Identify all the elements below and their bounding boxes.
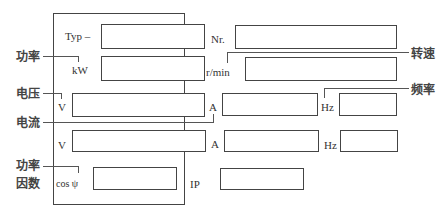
current-leader-h xyxy=(43,122,213,123)
power-factor-leader-h xyxy=(43,166,79,167)
voltage-field-1[interactable] xyxy=(72,93,205,117)
power-unit-label: kW xyxy=(72,64,88,76)
frequency-annotation: 频率 xyxy=(411,84,435,97)
current-unit-label-1: A xyxy=(209,101,217,113)
freq-unit-label-2: Hz xyxy=(324,139,337,151)
frequency-leader-h xyxy=(324,88,409,89)
current-leader-v xyxy=(213,114,214,123)
ip-field[interactable] xyxy=(220,168,304,190)
voltage-field-2[interactable] xyxy=(72,130,206,152)
number-field[interactable] xyxy=(235,25,397,49)
voltage-leader-h xyxy=(43,93,62,94)
power-leader-v xyxy=(78,56,79,62)
freq-unit-label-1: Hz xyxy=(321,101,334,113)
voltage-leader-v xyxy=(61,93,62,99)
cos-label: cos ψ xyxy=(56,178,78,190)
speed-leader-v xyxy=(227,52,228,63)
current-field-2[interactable] xyxy=(224,130,319,152)
freq-field-2[interactable] xyxy=(340,130,398,152)
freq-field-1[interactable] xyxy=(339,93,397,116)
power-annotation: 功率 xyxy=(16,51,40,64)
speed-unit-label: r/min xyxy=(206,66,230,78)
power-leader-h xyxy=(43,56,79,57)
power-factor-annotation-line2: 因数 xyxy=(16,178,40,191)
cos-field[interactable] xyxy=(93,167,177,190)
speed-field[interactable] xyxy=(245,57,397,81)
type-label: Typ – xyxy=(65,30,90,42)
voltage-unit-label-1: V xyxy=(58,101,66,113)
current-field-1[interactable] xyxy=(222,93,318,116)
ip-label: IP xyxy=(190,178,200,190)
current-unit-label-2: A xyxy=(211,138,219,150)
type-field[interactable] xyxy=(101,24,205,49)
speed-annotation: 转速 xyxy=(411,48,435,61)
voltage-unit-label-2: V xyxy=(58,139,66,151)
power-factor-annotation-line1: 功率 xyxy=(16,160,40,173)
frequency-leader-v xyxy=(324,88,325,98)
speed-leader-h xyxy=(227,52,409,53)
power-field[interactable] xyxy=(101,56,205,81)
power-factor-leader-v xyxy=(78,166,79,173)
current-annotation: 电流 xyxy=(16,117,40,130)
voltage-annotation: 电压 xyxy=(16,88,40,101)
number-label: Nr. xyxy=(211,33,225,45)
